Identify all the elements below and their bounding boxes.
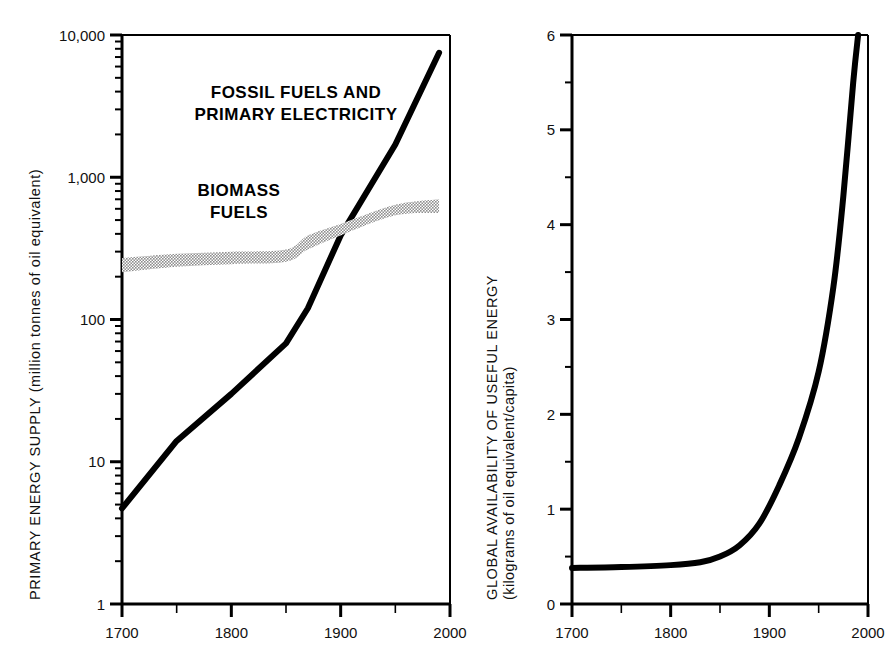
y-tick-label: 1,000: [67, 169, 105, 186]
y-tick-label: 6: [547, 27, 555, 44]
y-tick-label: 1: [97, 596, 105, 613]
fossil-fuels-label: PRIMARY ELECTRICITY: [194, 105, 397, 124]
x-tick-label: 1800: [215, 624, 248, 641]
y-tick-label: 100: [80, 311, 105, 328]
x-tick-label: 1700: [555, 624, 588, 641]
chart-primary-energy-supply: 1101001,00010,0001700180019002000FOSSIL …: [59, 27, 467, 642]
x-tick-label: 1900: [324, 624, 357, 641]
energy-figure: 1101001,00010,0001700180019002000FOSSIL …: [0, 0, 890, 667]
biomass-fuels-band: [122, 199, 439, 272]
chart-global-availability-useful-energy: 01234561700180019002000: [547, 27, 885, 642]
x-tick-label: 1800: [654, 624, 687, 641]
y-tick-label: 3: [547, 311, 555, 328]
fossil-fuels-label: FOSSIL FUELS AND: [211, 83, 381, 102]
y-tick-label: 10: [88, 453, 105, 470]
biomass-fuels-label: FUELS: [210, 203, 268, 222]
left-y-axis-title: PRIMARY ENERGY SUPPLY (million tonnes of…: [27, 169, 43, 600]
x-tick-label: 2000: [433, 624, 466, 641]
y-tick-label: 5: [547, 121, 555, 138]
y-tick-label: 1: [547, 501, 555, 518]
series-line: [572, 35, 858, 568]
y-tick-label: 4: [547, 216, 555, 233]
y-tick-label: 2: [547, 406, 555, 423]
right-y-axis-title: GLOBAL AVAILABILITY OF USEFUL ENERGY: [484, 275, 500, 600]
x-tick-label: 2000: [851, 624, 884, 641]
biomass-fuels-label: BIOMASS: [198, 181, 281, 200]
x-tick-label: 1700: [105, 624, 138, 641]
right-y-axis-units: (kilograms of oil equivalent/capita): [501, 366, 517, 600]
x-tick-label: 1900: [753, 624, 786, 641]
figure-svg: 1101001,00010,0001700180019002000FOSSIL …: [0, 0, 890, 667]
y-tick-label: 0: [547, 596, 555, 613]
y-tick-label: 10,000: [59, 27, 105, 44]
